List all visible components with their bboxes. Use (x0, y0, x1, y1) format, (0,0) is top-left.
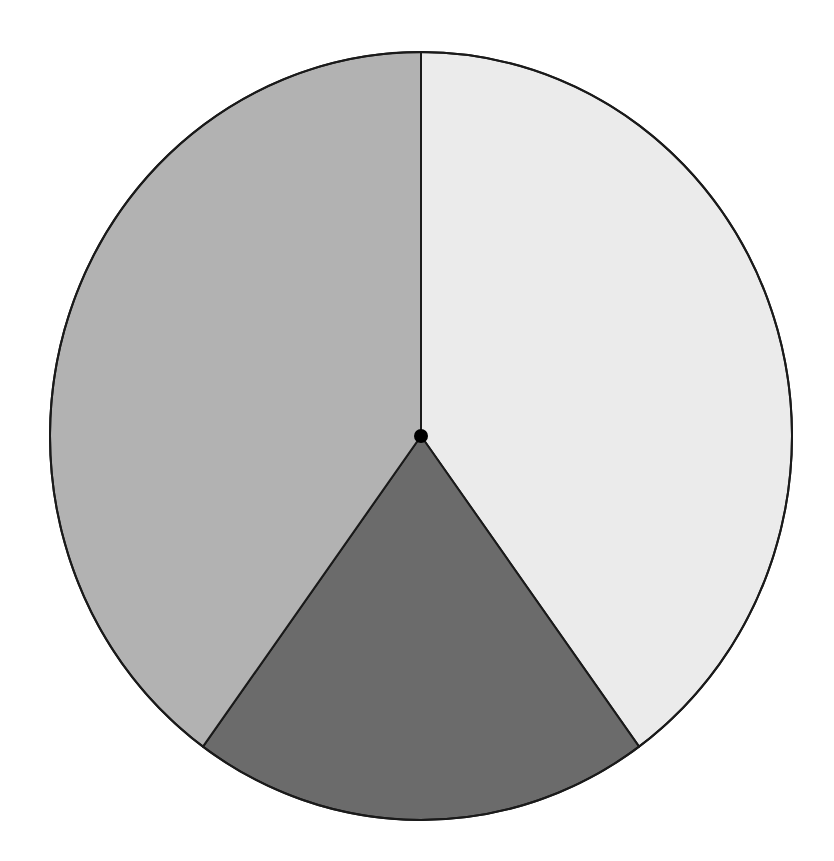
pie-center-dot (414, 429, 428, 443)
pie-chart (0, 0, 834, 861)
